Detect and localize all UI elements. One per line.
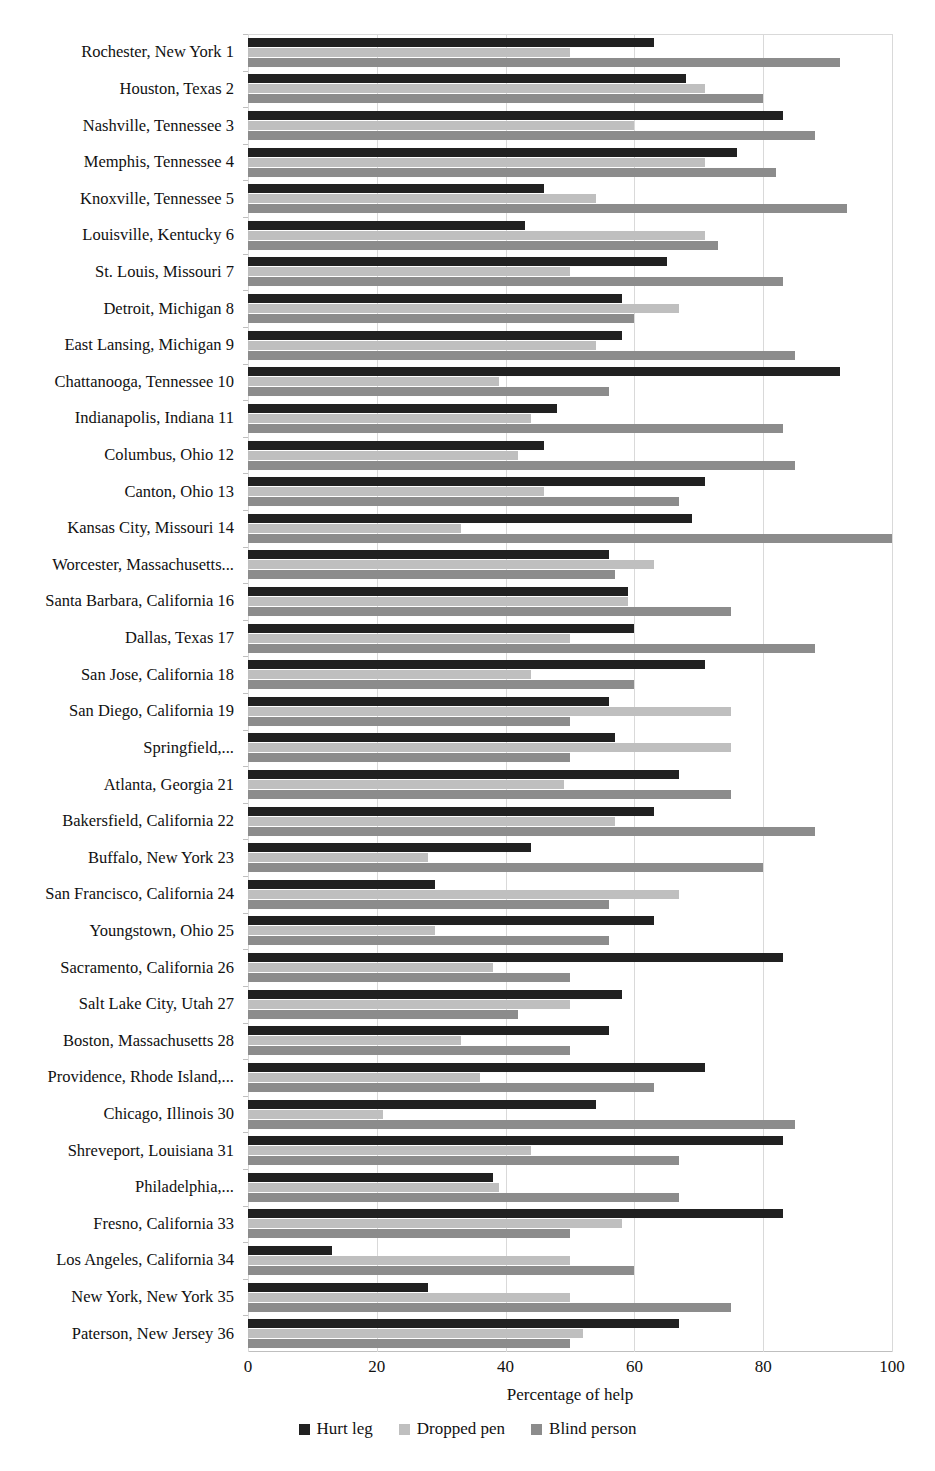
- bar-dropped-pen: [248, 853, 428, 862]
- bar-group: [248, 180, 892, 217]
- bar-group: [248, 290, 892, 327]
- y-axis-category-labels: Rochester, New York 1Houston, Texas 2Nas…: [0, 34, 243, 1352]
- bar-hurt-leg: [248, 257, 667, 266]
- y-axis-label: Bakersfield, California 22: [62, 812, 234, 829]
- bar-blind-person: [248, 94, 763, 103]
- bar-blind-person: [248, 644, 815, 653]
- chart-legend: Hurt legDropped penBlind person: [0, 1419, 935, 1439]
- bar-dropped-pen: [248, 597, 628, 606]
- bar-blind-person: [248, 973, 570, 982]
- bar-group: [248, 437, 892, 474]
- legend-label: Blind person: [549, 1419, 636, 1439]
- y-axis-label: East Lansing, Michigan 9: [64, 336, 234, 353]
- x-axis-tick-labels: 020406080100: [248, 1356, 892, 1382]
- bar-group: [248, 1023, 892, 1060]
- bar-hurt-leg: [248, 843, 531, 852]
- bar-blind-person: [248, 314, 634, 323]
- y-axis-label: Louisville, Kentucky 6: [82, 226, 234, 243]
- y-axis-label: Chattanooga, Tennessee 10: [54, 373, 234, 390]
- bar-blind-person: [248, 131, 815, 140]
- bar-group: [248, 327, 892, 364]
- bar-hurt-leg: [248, 990, 622, 999]
- legend-item-hurt-leg[interactable]: Hurt leg: [299, 1419, 373, 1439]
- bar-group: [248, 876, 892, 913]
- bar-dropped-pen: [248, 194, 596, 203]
- bar-hurt-leg: [248, 1063, 705, 1072]
- bar-dropped-pen: [248, 267, 570, 276]
- bar-blind-person: [248, 241, 718, 250]
- bar-dropped-pen: [248, 890, 679, 899]
- bar-blind-person: [248, 204, 847, 213]
- y-axis-label: Knoxville, Tennessee 5: [80, 190, 234, 207]
- bar-dropped-pen: [248, 84, 705, 93]
- y-axis-label: Los Angeles, California 34: [56, 1251, 234, 1268]
- bar-group: [248, 839, 892, 876]
- legend-item-blind-person[interactable]: Blind person: [531, 1419, 636, 1439]
- bar-hurt-leg: [248, 1283, 428, 1292]
- bar-blind-person: [248, 827, 815, 836]
- bar-blind-person: [248, 900, 609, 909]
- bar-blind-person: [248, 1156, 679, 1165]
- bar-hurt-leg: [248, 550, 609, 559]
- bar-dropped-pen: [248, 1329, 583, 1338]
- y-axis-label: Sacramento, California 26: [60, 959, 234, 976]
- bar-dropped-pen: [248, 1293, 570, 1302]
- bar-blind-person: [248, 753, 570, 762]
- bar-dropped-pen: [248, 634, 570, 643]
- y-axis-label: Salt Lake City, Utah 27: [79, 995, 234, 1012]
- y-axis-label: Youngstown, Ohio 25: [89, 922, 234, 939]
- bar-group: [248, 1206, 892, 1243]
- bar-hurt-leg: [248, 660, 705, 669]
- bar-hurt-leg: [248, 294, 622, 303]
- bar-blind-person: [248, 1120, 795, 1129]
- bar-hurt-leg: [248, 404, 557, 413]
- bar-hurt-leg: [248, 1246, 332, 1255]
- bar-dropped-pen: [248, 743, 731, 752]
- bar-group: [248, 803, 892, 840]
- bar-group: [248, 547, 892, 584]
- bar-blind-person: [248, 863, 763, 872]
- bar-blind-person: [248, 424, 783, 433]
- bar-blind-person: [248, 607, 731, 616]
- bar-hurt-leg: [248, 184, 544, 193]
- bar-blind-person: [248, 58, 840, 67]
- bar-blind-person: [248, 570, 615, 579]
- bar-blind-person: [248, 717, 570, 726]
- y-axis-label: Nashville, Tennessee 3: [83, 117, 234, 134]
- bar-group: [248, 1096, 892, 1133]
- bar-dropped-pen: [248, 524, 461, 533]
- bar-group: [248, 949, 892, 986]
- bar-group: [248, 364, 892, 401]
- x-axis-tick-label: 60: [626, 1356, 643, 1378]
- bar-group: [248, 473, 892, 510]
- legend-label: Dropped pen: [417, 1419, 505, 1439]
- bar-blind-person: [248, 534, 892, 543]
- legend-swatch-icon: [399, 1424, 410, 1435]
- y-axis-label: Santa Barbara, California 16: [45, 592, 234, 609]
- bar-group: [248, 913, 892, 950]
- bar-group: [248, 1315, 892, 1352]
- bar-group: [248, 1169, 892, 1206]
- bar-blind-person: [248, 1010, 518, 1019]
- bar-dropped-pen: [248, 963, 493, 972]
- y-axis-label: San Diego, California 19: [69, 702, 234, 719]
- bar-group: [248, 400, 892, 437]
- y-axis-label: Rochester, New York 1: [81, 43, 234, 60]
- bar-hurt-leg: [248, 880, 435, 889]
- bar-dropped-pen: [248, 377, 499, 386]
- bar-hurt-leg: [248, 807, 654, 816]
- bar-hurt-leg: [248, 1026, 609, 1035]
- bar-dropped-pen: [248, 451, 518, 460]
- bar-group: [248, 510, 892, 547]
- plot-area: [248, 34, 892, 1352]
- bar-blind-person: [248, 1083, 654, 1092]
- bar-dropped-pen: [248, 158, 705, 167]
- legend-item-dropped-pen[interactable]: Dropped pen: [399, 1419, 505, 1439]
- bar-group: [248, 1279, 892, 1316]
- bar-group: [248, 107, 892, 144]
- bar-hurt-leg: [248, 1173, 493, 1182]
- bar-blind-person: [248, 936, 609, 945]
- x-axis-tick-label: 100: [879, 1356, 905, 1378]
- bar-blind-person: [248, 1046, 570, 1055]
- bar-blind-person: [248, 1303, 731, 1312]
